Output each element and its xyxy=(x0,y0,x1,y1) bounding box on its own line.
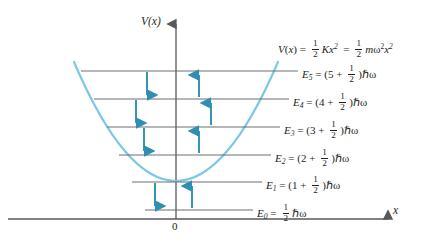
energy-label-0: E0 = 12 ℏω xyxy=(257,203,307,223)
energy-label-4: E4 = (4 + 12 )ℏω xyxy=(293,92,367,112)
energy-label-2: E2 = (2 + 12 )ℏω xyxy=(275,148,349,168)
harmonic-oscillator-diagram xyxy=(0,0,423,241)
origin-label: 0 xyxy=(172,221,178,232)
emission-arrows xyxy=(136,72,155,206)
absorption-arrows xyxy=(192,75,211,208)
energy-label-1: E1 = (1 + 12 )ℏω xyxy=(266,175,340,195)
energy-label-5: E5 = (5 + 12 )ℏω xyxy=(302,64,376,84)
y-axis-label: V(x) xyxy=(141,16,161,28)
x-axis-label: x xyxy=(393,205,398,217)
potential-equation-label: V(x) = 12 Kx2 = 12 mω2x2 xyxy=(278,39,393,59)
energy-label-3: E3 = (3 + 12 )ℏω xyxy=(284,120,358,140)
figure-container: V(x) x 0 V(x) = 12 Kx2 = 12 mω2x2 E5 = (… xyxy=(0,0,423,241)
